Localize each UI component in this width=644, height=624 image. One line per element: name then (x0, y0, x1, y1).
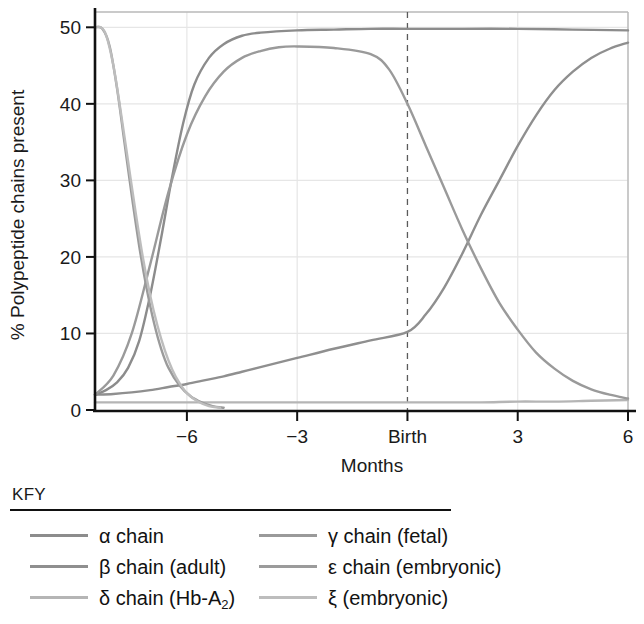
legend-label: ξ (embryonic) (328, 588, 448, 608)
series-line-1 (95, 43, 628, 395)
legend-entries: α chainγ chain (fetal)β chain (adult)ε c… (8, 520, 636, 613)
hemoglobin-chain-chart: 01020304050 −6−3Birth36 % Polypeptide ch… (0, 0, 644, 478)
x-tick-label: −3 (286, 426, 308, 447)
x-axis-ticks: −6−3Birth36 (176, 411, 633, 447)
legend-entry-right-1: ε chain (embryonic) (253, 551, 636, 582)
series-line-5 (95, 27, 220, 408)
y-tick-label: 10 (60, 323, 81, 344)
legend-label: ε chain (embryonic) (328, 557, 501, 577)
series-line-4 (95, 27, 224, 408)
y-tick-label: 50 (60, 17, 81, 38)
figure-root: 01020304050 −6−3Birth36 % Polypeptide ch… (0, 0, 644, 624)
x-tick-label: 6 (623, 426, 634, 447)
series-line-0 (95, 29, 628, 395)
y-tick-label: 30 (60, 170, 81, 191)
legend-swatch-line (30, 596, 88, 599)
y-axis-title: % Polypeptide chains present (7, 89, 28, 340)
legend-swatch-line (259, 534, 317, 537)
x-tick-label: 3 (512, 426, 523, 447)
legend-swatch-line (30, 534, 88, 537)
y-tick-label: 40 (60, 94, 81, 115)
x-tick-label: Birth (388, 426, 427, 447)
legend-swatch-line (30, 565, 88, 568)
legend-label: β chain (adult) (99, 557, 226, 577)
series-line-2 (95, 400, 628, 402)
legend-swatch-line (259, 565, 317, 568)
x-tick-label: −6 (176, 426, 198, 447)
legend-entry-right-0: γ chain (fetal) (253, 520, 636, 551)
y-axis-ticks: 01020304050 (60, 17, 95, 421)
legend-entry-left-0: α chain (8, 520, 253, 551)
y-tick-label: 20 (60, 247, 81, 268)
chart-panel: 01020304050 −6−3Birth36 % Polypeptide ch… (0, 0, 644, 478)
x-axis-title: Months (341, 455, 403, 476)
legend-label-subscript: 2 (221, 597, 228, 612)
legend-title: KFY (8, 484, 636, 508)
legend-entry-left-1: β chain (adult) (8, 551, 253, 582)
legend-label: δ chain (Hb-A2) (99, 588, 235, 608)
legend-entry-right-2: ξ (embryonic) (253, 582, 636, 613)
legend-divider (10, 509, 451, 511)
legend-label: α chain (99, 526, 164, 546)
legend-entry-left-2: δ chain (Hb-A2) (8, 582, 253, 613)
legend-swatch-line (259, 596, 317, 599)
data-series-group (95, 27, 628, 408)
legend-label: γ chain (fetal) (328, 526, 448, 546)
y-tick-label: 0 (70, 400, 81, 421)
gridlines (95, 12, 628, 410)
legend-panel: KFY α chainγ chain (fetal)β chain (adult… (8, 484, 636, 620)
